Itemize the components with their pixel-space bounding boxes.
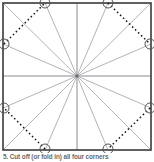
paper-folding-diagram [0, 0, 154, 162]
figure-caption: 5. Cut off (or fold in) all four corners [3, 153, 108, 161]
radiating-fold-lines-group [3, 3, 151, 150]
diagram-center-point [75, 74, 78, 77]
caption-bar: 5. Cut off (or fold in) all four corners [0, 153, 154, 162]
fold-instruction-figure: 5. Cut off (or fold in) all four corners [0, 0, 154, 162]
